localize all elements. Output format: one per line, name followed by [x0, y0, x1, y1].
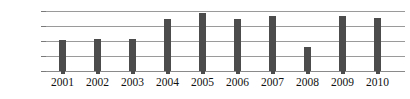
- x-axis-tick-mark: [61, 71, 65, 74]
- bar-2003: [129, 39, 136, 71]
- bars-layer: [46, 11, 405, 71]
- x-axis-tick-label-2005: 2005: [185, 75, 221, 89]
- bar-2010: [374, 18, 381, 71]
- bar-2004: [164, 19, 171, 72]
- x-axis-tick-label-2008: 2008: [290, 75, 326, 89]
- x-axis-tick-mark: [131, 71, 135, 74]
- x-axis-tick-label-2002: 2002: [80, 75, 116, 89]
- x-axis-tick-label-2010: 2010: [360, 75, 396, 89]
- bar-2009: [339, 16, 346, 71]
- x-axis-tick-label-2006: 2006: [220, 75, 256, 89]
- bar-2005: [199, 13, 206, 72]
- x-axis-tick-label-2007: 2007: [255, 75, 291, 89]
- x-axis-tick-label-2001: 2001: [45, 75, 81, 89]
- bar-2006: [234, 19, 241, 72]
- x-axis-tick-mark: [376, 71, 380, 74]
- x-axis-tick-mark: [236, 71, 240, 74]
- x-axis-tick-mark: [306, 71, 310, 74]
- x-axis-tick-mark: [341, 71, 345, 74]
- x-axis: 2001 2002 2003 2004 2005 2006 2007 2008 …: [46, 75, 405, 95]
- x-axis-tick-mark: [96, 71, 100, 74]
- x-axis-tick-label-2004: 2004: [150, 75, 186, 89]
- plot-area: [46, 11, 405, 71]
- x-axis-tick-mark: [271, 71, 275, 74]
- bar-2001: [59, 40, 66, 71]
- x-axis-tick-mark: [201, 71, 205, 74]
- bar-2007: [269, 16, 276, 71]
- gridline-0-baseline: [46, 71, 405, 72]
- x-axis-tick-mark: [166, 71, 170, 74]
- bar-2002: [94, 39, 101, 71]
- x-axis-tick-label-2009: 2009: [325, 75, 361, 89]
- bar-chart: 4000 3000 2000 1000 0: [0, 0, 410, 99]
- x-axis-tick-label-2003: 2003: [115, 75, 151, 89]
- bar-2008: [304, 47, 311, 71]
